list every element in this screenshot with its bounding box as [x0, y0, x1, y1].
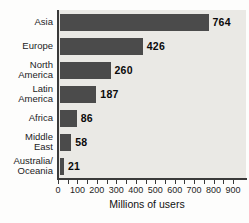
bar: [60, 158, 64, 175]
category-label: Australia/Oceania: [13, 156, 53, 176]
label-row: Africa: [0, 106, 58, 130]
x-tick-label: 300: [109, 185, 124, 195]
x-tick-label: 900: [225, 185, 240, 195]
x-tick: [87, 180, 88, 184]
x-tick: [107, 180, 108, 184]
category-label: LatinAmerica: [18, 84, 53, 104]
category-label: MiddleEast: [25, 132, 53, 152]
bar: [60, 62, 111, 79]
x-tick: [165, 180, 166, 184]
x-tick: [136, 180, 137, 184]
x-tick: [223, 180, 224, 184]
x-tick: [155, 180, 156, 184]
chart-rows: AsiaEuropeNorthAmericaLatinAmericaAfrica…: [0, 10, 246, 178]
x-tick: [194, 180, 195, 184]
bar-row: 260: [58, 58, 246, 82]
x-tick: [68, 180, 69, 184]
x-tick: [214, 180, 215, 184]
x-tick: [146, 180, 147, 184]
category-label: Asia: [35, 17, 53, 27]
x-tick-label: 0: [55, 185, 60, 195]
bar-row: 187: [58, 82, 246, 106]
x-tick-label: 100: [70, 185, 85, 195]
label-row: Australia/Oceania: [0, 154, 58, 178]
x-tick: [58, 180, 59, 184]
x-axis-tick-labels: 0100200300400500600700800900: [58, 185, 233, 195]
bar: [60, 134, 71, 151]
value-label: 86: [81, 112, 93, 124]
bar-row: 426: [58, 34, 246, 58]
value-label: 21: [68, 160, 80, 172]
label-row: LatinAmerica: [0, 82, 58, 106]
value-label: 187: [100, 88, 118, 100]
label-row: MiddleEast: [0, 130, 58, 154]
x-tick: [233, 180, 234, 184]
bar-row: 58: [58, 130, 246, 154]
category-label: NorthAmerica: [18, 60, 53, 80]
x-axis-title: Millions of users: [58, 198, 236, 210]
x-tick: [77, 180, 78, 184]
x-tick: [184, 180, 185, 184]
x-tick-label: 400: [128, 185, 143, 195]
x-tick-label: 500: [148, 185, 163, 195]
bars-column: 764426260187865821: [58, 10, 246, 178]
label-row: NorthAmerica: [0, 58, 58, 82]
bar-row: 21: [58, 154, 246, 178]
bar: [60, 14, 209, 31]
label-row: Asia: [0, 10, 58, 34]
category-labels-column: AsiaEuropeNorthAmericaLatinAmericaAfrica…: [0, 10, 58, 178]
bar-chart: AsiaEuropeNorthAmericaLatinAmericaAfrica…: [0, 0, 249, 223]
x-tick-label: 600: [167, 185, 182, 195]
value-label: 260: [115, 64, 133, 76]
x-tick: [116, 180, 117, 184]
value-label: 426: [147, 40, 165, 52]
x-tick-label: 200: [89, 185, 104, 195]
x-tick-label: 700: [187, 185, 202, 195]
x-axis-ticks: [58, 180, 233, 184]
label-row: Europe: [0, 34, 58, 58]
bar-row: 764: [58, 10, 246, 34]
category-label: Europe: [22, 41, 53, 51]
bar: [60, 86, 96, 103]
category-label: Africa: [29, 113, 53, 123]
value-label: 764: [213, 16, 231, 28]
x-tick: [97, 180, 98, 184]
x-tick: [126, 180, 127, 184]
bar: [60, 110, 77, 127]
value-label: 58: [75, 136, 87, 148]
bar-row: 86: [58, 106, 246, 130]
x-tick: [204, 180, 205, 184]
x-tick: [175, 180, 176, 184]
x-tick-label: 800: [206, 185, 221, 195]
bar: [60, 38, 143, 55]
